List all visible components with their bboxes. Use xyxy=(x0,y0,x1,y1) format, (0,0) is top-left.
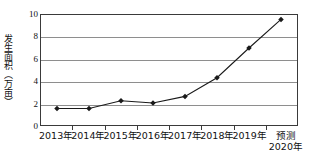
x-axis-tick-label: 2019年 xyxy=(233,130,267,141)
data-series-line xyxy=(41,15,297,125)
y-axis-tick-label: 6 xyxy=(16,54,38,63)
x-axis-tick-label-line: 2018年 xyxy=(200,130,234,141)
x-axis-tick-label: 2016年 xyxy=(136,130,170,141)
y-axis-tick-label: 10 xyxy=(16,10,38,19)
y-axis-tick-label: 0 xyxy=(16,122,38,131)
x-axis-tick-label: 预测2020年 xyxy=(269,130,303,152)
x-axis-tick-label: 2017年 xyxy=(168,130,202,141)
plot-area xyxy=(40,14,298,126)
x-axis-tick-label: 2014年 xyxy=(71,130,105,141)
chart-container: 发生面积（万亩） 0246810 2013年2014年2015年2016年201… xyxy=(0,0,311,156)
x-axis-tick-label-line: 2015年 xyxy=(104,130,138,141)
x-axis-tick-label-line: 2014年 xyxy=(71,130,105,141)
x-axis-tick-label: 2015年 xyxy=(104,130,138,141)
x-axis-tick-label-line: 预测 xyxy=(276,130,296,141)
x-axis-tick-label-line: 2017年 xyxy=(168,130,202,141)
x-axis-tick-label: 2013年 xyxy=(39,130,73,141)
series-polyline xyxy=(57,19,281,108)
y-axis-tick-label: 8 xyxy=(16,32,38,41)
x-axis-tick-label-line: 2020年 xyxy=(269,141,303,152)
data-point-marker[interactable] xyxy=(182,94,188,100)
y-axis-title-text: 发生面积（万亩） xyxy=(3,34,13,106)
y-axis-tick-label: 4 xyxy=(16,77,38,86)
x-axis-tick-label-line: 2016年 xyxy=(136,130,170,141)
data-point-marker[interactable] xyxy=(54,106,60,112)
data-point-marker[interactable] xyxy=(86,106,92,112)
data-point-marker[interactable] xyxy=(150,100,156,106)
y-axis-tick-labels: 0246810 xyxy=(14,0,38,156)
x-axis-tick-labels: 2013年2014年2015年2016年2017年2018年2019年预测202… xyxy=(40,130,298,156)
data-point-marker[interactable] xyxy=(118,98,124,104)
x-axis-tick-label-line: 2013年 xyxy=(39,130,73,141)
x-axis-tick-label: 2018年 xyxy=(200,130,234,141)
x-axis-tick-label-line: 2019年 xyxy=(233,130,267,141)
y-axis-tick-label: 2 xyxy=(16,99,38,108)
